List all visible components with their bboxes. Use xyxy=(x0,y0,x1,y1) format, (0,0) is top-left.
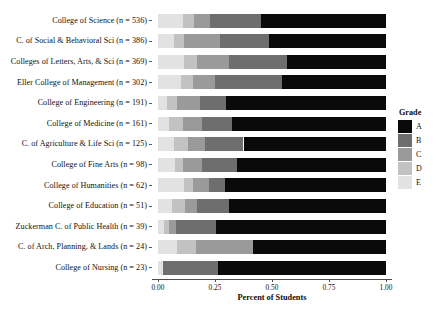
y-axis-label-row: College of Engineering (n = 191) xyxy=(0,92,152,113)
y-axis-label: College of Nursing (n = 23) xyxy=(55,263,152,272)
stacked-bar-chart: College of Science (n = 536)C. of Social… xyxy=(0,0,439,316)
bar-segment-b xyxy=(200,96,226,110)
x-axis-tick xyxy=(215,279,216,282)
bar-segment-d xyxy=(169,117,183,131)
y-axis-label-row: C. of Agriculture & Life Sci (n = 125) xyxy=(0,134,152,155)
y-axis-label: College of Fine Arts (n = 98) xyxy=(52,160,152,169)
bar-segment-a xyxy=(253,240,386,254)
y-axis-label: College of Engineering (n = 191) xyxy=(38,98,152,107)
x-axis-tick-label: 0.25 xyxy=(209,283,222,292)
bar-row xyxy=(152,34,392,48)
x-axis-tick xyxy=(272,279,273,282)
bar-segment-c xyxy=(183,158,202,172)
y-axis-label-row: C. of Social & Behavioral Sci (n = 386) xyxy=(0,31,152,52)
bar-row xyxy=(152,117,392,131)
legend-item-c[interactable]: C xyxy=(398,147,439,161)
legend-label: B xyxy=(416,136,421,145)
bar-segment-e xyxy=(158,34,174,48)
bar-segment-e xyxy=(158,199,172,213)
bar-segment-d xyxy=(183,14,194,28)
legend-swatch-a xyxy=(398,120,412,133)
bar-segment-a xyxy=(244,137,387,151)
plot-panel xyxy=(152,10,392,278)
bar-row xyxy=(152,96,392,110)
bar-row xyxy=(152,261,392,275)
legend-title: Grade xyxy=(399,108,439,117)
bar-row xyxy=(152,178,392,192)
y-axis-label-row: College of Humanities (n = 62) xyxy=(0,175,152,196)
bar-segment-a xyxy=(229,199,386,213)
legend-item-d[interactable]: D xyxy=(398,161,439,175)
bar-row xyxy=(152,199,392,213)
bar-segment-a xyxy=(226,96,386,110)
bar-segment-b xyxy=(205,137,244,151)
bar-segment-d xyxy=(177,240,195,254)
y-axis-label: C. of Agriculture & Life Sci (n = 125) xyxy=(22,139,152,148)
bar-row xyxy=(152,14,392,28)
bar-segment-b xyxy=(215,75,282,89)
legend-label: A xyxy=(416,122,422,131)
bar-segment-c xyxy=(193,178,209,192)
legend-item-b[interactable]: B xyxy=(398,133,439,147)
bar-segment-b xyxy=(163,261,219,275)
bar-segment-d xyxy=(184,178,193,192)
bar-segment-e xyxy=(158,117,169,131)
y-axis-label: College of Medicine (n = 161) xyxy=(47,119,152,128)
bar-segment-a xyxy=(216,220,386,234)
y-axis-label: College of Education (n = 51) xyxy=(49,201,152,210)
bar-segment-d xyxy=(172,199,186,213)
bar-segment-b xyxy=(202,158,236,172)
bar-segment-a xyxy=(225,178,386,192)
y-axis-label-row: College of Science (n = 536) xyxy=(0,10,152,31)
bar-segment-c xyxy=(193,75,215,89)
y-axis-label: C. of Arch, Planning, & Lands (n = 24) xyxy=(18,242,152,251)
y-axis-label-row: College of Medicine (n = 161) xyxy=(0,113,152,134)
legend-swatch-d xyxy=(398,162,412,175)
bar-segment-e xyxy=(158,158,175,172)
x-axis-tick xyxy=(158,279,159,282)
legend-items: ABCDE xyxy=(398,119,439,189)
legend-item-a[interactable]: A xyxy=(398,119,439,133)
bar-row xyxy=(152,75,392,89)
bar-row xyxy=(152,137,392,151)
bar-segment-b xyxy=(202,117,232,131)
bar-segment-e xyxy=(158,55,184,69)
x-axis-tick-label: 1.00 xyxy=(380,283,393,292)
bar-segment-a xyxy=(218,261,386,275)
legend-label: E xyxy=(416,178,421,187)
legend-item-e[interactable]: E xyxy=(398,175,439,189)
bar-segment-b xyxy=(209,178,225,192)
y-axis-label-row: Colleges of Letters, Arts, & Sci (n = 36… xyxy=(0,51,152,72)
bar-row xyxy=(152,55,392,69)
bar-segment-c xyxy=(177,96,200,110)
x-axis-tick xyxy=(386,279,387,282)
bar-segment-e xyxy=(158,240,177,254)
bar-segment-a xyxy=(261,14,386,28)
y-axis-label-row: Zuckerman C. of Public Health (n = 39) xyxy=(0,216,152,237)
bar-segment-e xyxy=(158,178,184,192)
x-axis-tick-label: 0.50 xyxy=(266,283,279,292)
bar-segment-d xyxy=(167,96,177,110)
bar-segment-d xyxy=(174,137,188,151)
bar-segment-b xyxy=(229,55,287,69)
legend-swatch-e xyxy=(398,176,412,189)
bar-row xyxy=(152,240,392,254)
y-axis-label-row: C. of Arch, Planning, & Lands (n = 24) xyxy=(0,237,152,258)
bar-segment-a xyxy=(232,117,386,131)
bar-segment-a xyxy=(282,75,386,89)
bar-segment-b xyxy=(210,14,260,28)
bar-segment-e xyxy=(158,96,167,110)
y-axis-label: College of Science (n = 536) xyxy=(52,16,152,25)
bar-segment-d xyxy=(174,34,184,48)
bar-row xyxy=(152,158,392,172)
bar-segment-a xyxy=(287,55,386,69)
y-axis-label: Zuckerman C. of Public Health (n = 39) xyxy=(16,222,152,231)
bar-segment-c xyxy=(184,34,219,48)
y-axis-label: C. of Social & Behavioral Sci (n = 386) xyxy=(16,36,152,45)
bar-segment-a xyxy=(237,158,386,172)
y-axis-label: Colleges of Letters, Arts, & Sci (n = 36… xyxy=(11,57,152,66)
bar-segment-c xyxy=(188,137,205,151)
legend-swatch-b xyxy=(398,134,412,147)
bar-segment-c xyxy=(183,117,202,131)
y-axis-label-row: College of Fine Arts (n = 98) xyxy=(0,154,152,175)
